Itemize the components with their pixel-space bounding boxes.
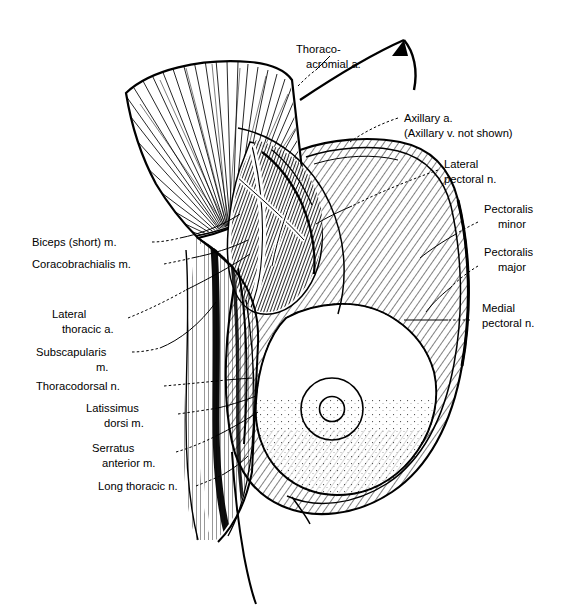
label-serratus-anterior-line1: Serratus <box>92 442 135 454</box>
label-axillary-artery-line1: Axillary a. <box>404 112 453 124</box>
label-medial-pectoral-nerve-line2: pectoral n. <box>482 317 534 329</box>
label-pectoralis-minor-line1: Pectoralis <box>484 203 534 215</box>
label-lateral-thoracic-artery-line1: Lateral <box>52 308 86 320</box>
label-subscapularis-line1: Subscapularis <box>36 346 107 358</box>
label-serratus-anterior-line2: anterior m. <box>102 457 155 469</box>
label-thoracoacromial-artery-line1: Thoraco- <box>296 43 341 55</box>
label-latissimus-dorsi-line1: Latissimus <box>86 402 139 414</box>
label-latissimus-dorsi-line2: dorsi m. <box>104 417 144 429</box>
label-thoracoacromial-artery-line2: acromial a. <box>306 58 361 70</box>
label-lateral-pectoral-nerve-line2: pectoral n. <box>444 173 496 185</box>
label-axillary-artery-line2: (Axillary v. not shown) <box>404 127 513 139</box>
figure-svg: Thoraco- acromial a. Axillary a. (Axilla… <box>0 0 576 606</box>
label-thoracodorsal-nerve: Thoracodorsal n. <box>36 380 120 392</box>
label-long-thoracic-nerve: Long thoracic n. <box>98 480 178 492</box>
label-lateral-thoracic-artery-line2: thoracic a. <box>62 323 114 335</box>
label-pectoralis-major-line2: major <box>498 261 526 273</box>
label-lateral-pectoral-nerve-line1: Lateral <box>444 158 478 170</box>
label-pectoralis-major-line1: Pectoralis <box>484 246 534 258</box>
label-biceps-short-head: Biceps (short) m. <box>32 236 117 248</box>
label-pectoralis-minor-line2: minor <box>498 218 526 230</box>
label-subscapularis-line2: m. <box>96 361 108 373</box>
label-coracobrachialis: Coracobrachialis m. <box>32 258 131 270</box>
label-medial-pectoral-nerve-line1: Medial <box>482 302 515 314</box>
anatomical-figure: Thoraco- acromial a. Axillary a. (Axilla… <box>0 0 576 606</box>
